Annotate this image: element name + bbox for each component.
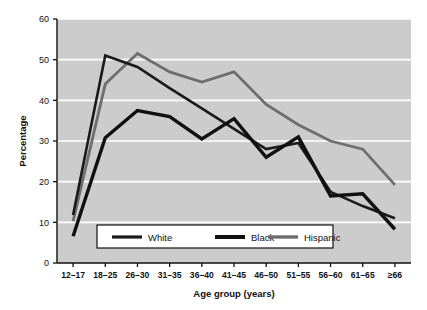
chart-figure: 0102030405060 12–1718–2526–3031–3536–404… (0, 0, 427, 310)
x-axis-title: Age group (years) (193, 288, 274, 299)
chart-legend: WhiteBlackHispanic (97, 225, 341, 248)
x-axis-tick-label: 46–50 (254, 270, 278, 280)
y-axis-title: Percentage (17, 115, 28, 166)
percentage-by-age-group-line-chart: 0102030405060 12–1718–2526–3031–3536–404… (0, 0, 427, 310)
x-axis-tick-label: 56–60 (319, 270, 343, 280)
y-axis-tick-label: 10 (39, 218, 49, 228)
y-axis-tick-label: 30 (39, 136, 49, 146)
y-axis-tick-label: 60 (39, 14, 49, 24)
y-axis-tick-label: 40 (39, 96, 49, 106)
x-axis-tick-label: 61–65 (351, 270, 375, 280)
x-axis-tick-label: 26–30 (126, 270, 150, 280)
x-axis-tick-label: 18–25 (93, 270, 117, 280)
x-axis-tick-label: 12–17 (61, 270, 85, 280)
y-axis-tick-label: 0 (44, 258, 49, 268)
x-axis-tick-labels: 12–1718–2526–3031–3536–4041–4546–5051–55… (61, 270, 402, 280)
y-axis-tick-label: 20 (39, 177, 49, 187)
legend-label-hispanic: Hispanic (304, 232, 341, 243)
x-axis-tick-label: 36–40 (190, 270, 214, 280)
x-axis-tick-label: 51–55 (286, 270, 310, 280)
x-axis-tick-label: ≥66 (388, 270, 402, 280)
y-axis-tick-labels: 0102030405060 (39, 14, 49, 268)
x-axis-tick-label: 31–35 (158, 270, 182, 280)
x-axis-tick-label: 41–45 (222, 270, 246, 280)
y-axis-tick-label: 50 (39, 55, 49, 65)
legend-label-white: White (148, 232, 172, 243)
